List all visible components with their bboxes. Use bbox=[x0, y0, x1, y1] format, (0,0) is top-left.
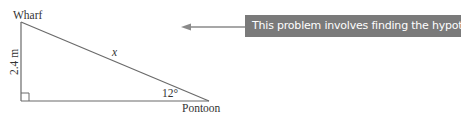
hypotenuse-callout: This problem involves finding the hypote… bbox=[245, 15, 461, 37]
vertical-side-label: 2.4 m bbox=[8, 49, 20, 75]
hypotenuse-side bbox=[21, 22, 209, 101]
arrow-head-icon bbox=[181, 24, 191, 31]
angle-label: 12° bbox=[162, 87, 179, 99]
hypotenuse-label: x bbox=[111, 46, 118, 58]
right-angle-marker bbox=[21, 93, 29, 101]
pontoon-label: Pontoon bbox=[182, 102, 221, 114]
wharf-label: Wharf bbox=[13, 9, 43, 21]
